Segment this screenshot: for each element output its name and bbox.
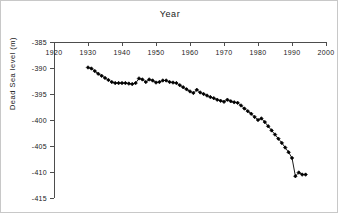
svg-text:-390: -390 — [32, 65, 47, 72]
svg-text:1960: 1960 — [182, 49, 199, 56]
svg-text:-400: -400 — [32, 117, 47, 124]
chart-figure: Year Dead Sea level (m) 1920193019401950… — [0, 0, 338, 213]
y-axis-ticks: -385-390-395-400-405-410-415 — [32, 39, 54, 202]
svg-text:1990: 1990 — [284, 49, 301, 56]
svg-text:-405: -405 — [32, 143, 47, 150]
x-axis-ticks: 192019301940195019601970198019902000 — [46, 42, 335, 56]
svg-text:-415: -415 — [32, 195, 47, 202]
svg-text:1920: 1920 — [46, 49, 63, 56]
series-markers — [86, 66, 307, 178]
plot-area: 192019301940195019601970198019902000 -38… — [1, 1, 338, 213]
svg-text:2000: 2000 — [318, 49, 335, 56]
svg-text:-410: -410 — [32, 169, 47, 176]
axis-lines — [54, 42, 326, 198]
svg-text:-395: -395 — [32, 91, 47, 98]
svg-text:1940: 1940 — [114, 49, 131, 56]
svg-text:1970: 1970 — [216, 49, 233, 56]
svg-text:1930: 1930 — [80, 49, 97, 56]
svg-text:-385: -385 — [32, 39, 47, 46]
svg-text:1950: 1950 — [148, 49, 165, 56]
svg-text:1980: 1980 — [250, 49, 267, 56]
